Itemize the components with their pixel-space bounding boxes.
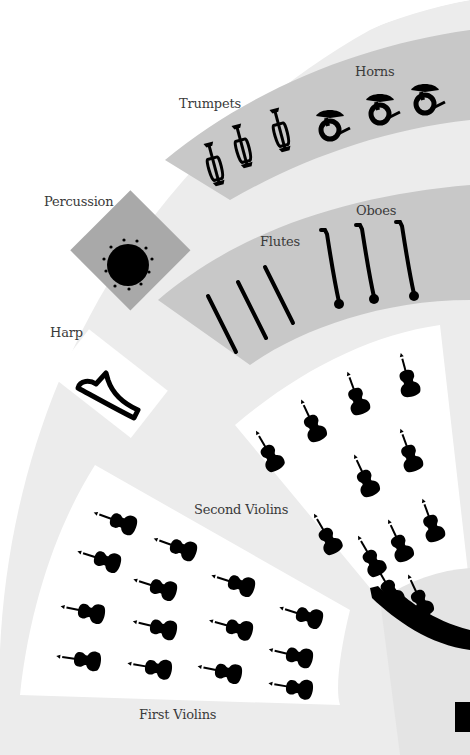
trumpets-label: Trumpets	[179, 96, 241, 111]
conductor-podium-icon	[455, 702, 470, 732]
horns-label: Horns	[355, 64, 394, 79]
orchestra-diagram: Trumpets Horns Percussion Flutes Oboes H…	[0, 0, 470, 755]
harp-label: Harp	[50, 325, 83, 340]
oboes-label: Oboes	[356, 203, 396, 218]
first-violins-label: First Violins	[139, 707, 216, 722]
percussion-label: Percussion	[44, 194, 113, 209]
flutes-label: Flutes	[260, 234, 300, 249]
second-violins-label: Second Violins	[194, 502, 288, 517]
